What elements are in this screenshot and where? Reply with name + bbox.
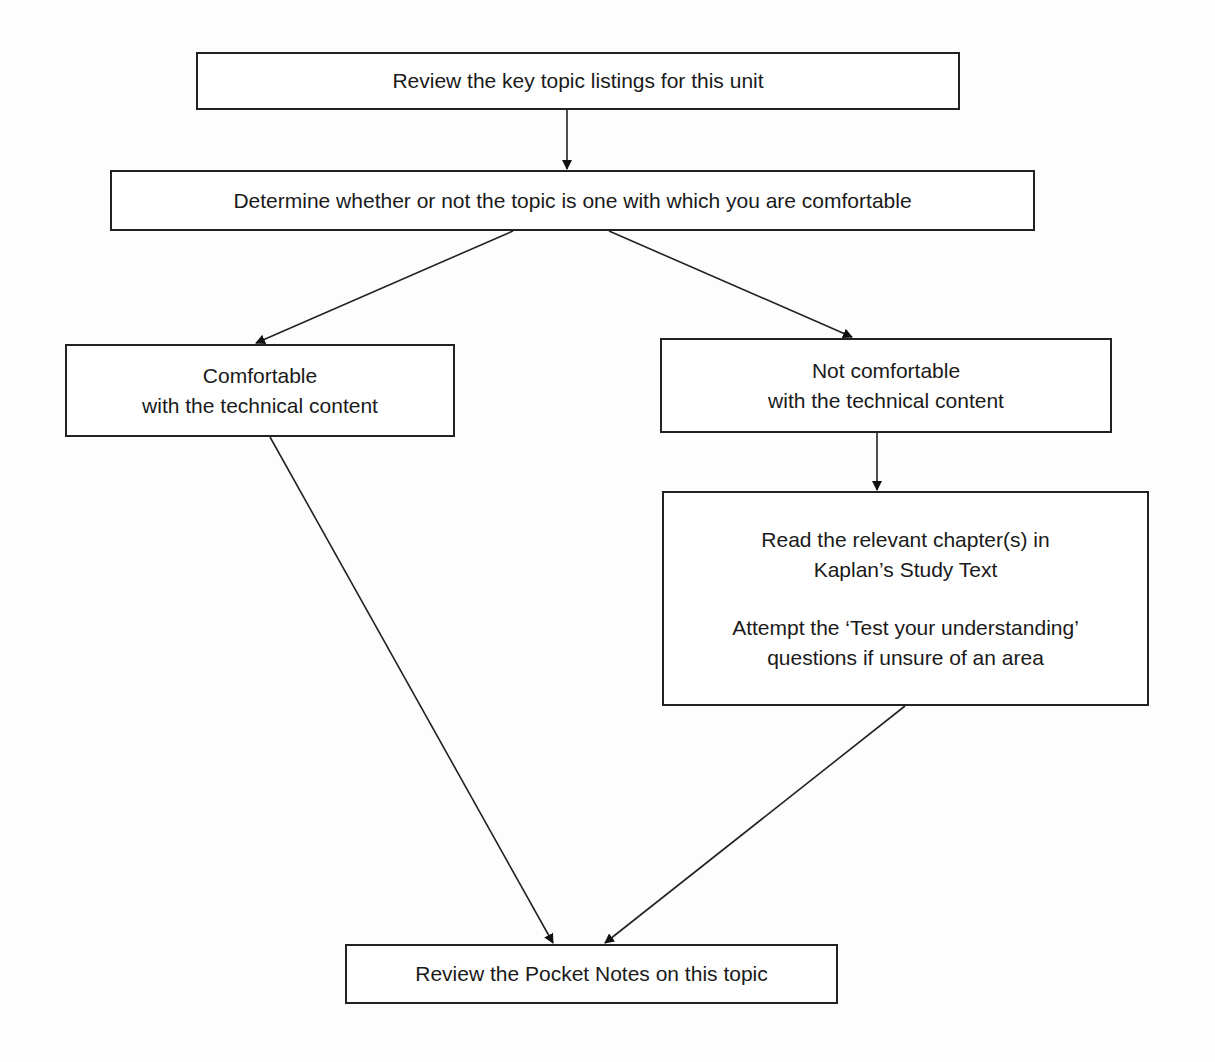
node-text-line-2: with the technical content [142, 391, 378, 421]
node-text-line-2: with the technical content [768, 386, 1004, 416]
node-text-attempt-line-1: Attempt the ‘Test your understanding’ [732, 613, 1079, 643]
node-text-read-line-1: Read the relevant chapter(s) in [761, 525, 1049, 555]
node-text: Determine whether or not the topic is on… [233, 186, 911, 216]
node-not-comfortable: Not comfortable with the technical conte… [660, 338, 1112, 433]
node-text: Review the key topic listings for this u… [392, 66, 763, 96]
node-review-pocket-notes: Review the Pocket Notes on this topic [345, 944, 838, 1004]
node-text-line-1: Comfortable [203, 361, 317, 391]
arrow-determine-to-comfortable [256, 231, 513, 343]
node-text-attempt-line-2: questions if unsure of an area [767, 643, 1044, 673]
node-text: Review the Pocket Notes on this topic [415, 959, 768, 989]
arrow-read-to-pocket-notes [605, 706, 905, 943]
node-text-line-1: Not comfortable [812, 356, 960, 386]
node-text-read-line-2: Kaplan’s Study Text [814, 555, 998, 585]
arrow-determine-to-not-comfortable [609, 231, 852, 337]
node-determine-comfort: Determine whether or not the topic is on… [110, 170, 1035, 231]
node-review-key-topics: Review the key topic listings for this u… [196, 52, 960, 110]
node-read-and-attempt: Read the relevant chapter(s) in Kaplan’s… [662, 491, 1149, 706]
arrow-comfortable-to-pocket-notes [270, 437, 553, 943]
node-comfortable: Comfortable with the technical content [65, 344, 455, 437]
